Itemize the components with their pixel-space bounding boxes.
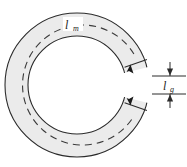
mean-path-label-subscript: m bbox=[73, 24, 79, 33]
core-fill bbox=[5, 13, 149, 157]
magnetic-core-figure: l m l g bbox=[0, 0, 187, 167]
core-diagram-svg: l m l g bbox=[0, 0, 187, 167]
air-gap-dimension: l g bbox=[152, 62, 186, 108]
core-body bbox=[5, 13, 149, 157]
core-inner-edge bbox=[28, 36, 126, 134]
gap-label-subscript: g bbox=[170, 85, 174, 94]
gap-arrow-up-icon bbox=[167, 95, 173, 102]
flux-direction-arrows bbox=[127, 65, 134, 106]
mean-path-label: l m bbox=[63, 17, 83, 33]
gap-arrow-down-icon bbox=[167, 69, 173, 76]
